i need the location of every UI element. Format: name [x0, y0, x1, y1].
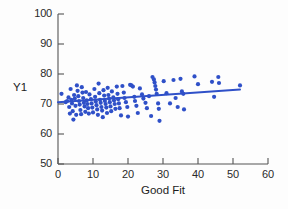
- scatter-point: [217, 81, 221, 85]
- y-axis-title: Y1: [13, 81, 27, 93]
- scatter-point: [124, 100, 128, 104]
- scatter-point: [92, 87, 96, 91]
- scatter-point: [87, 112, 91, 116]
- y-tick-label: 90: [20, 37, 52, 49]
- scatter-point: [126, 115, 130, 119]
- scatter-point: [100, 109, 104, 113]
- scatter-point: [74, 113, 78, 117]
- scatter-point: [216, 75, 220, 79]
- scatter-point: [153, 80, 157, 84]
- scatter-point: [143, 101, 147, 105]
- scatter-point: [115, 92, 119, 96]
- scatter-point: [212, 95, 216, 99]
- scatter-point: [104, 106, 108, 110]
- scatter-point: [75, 83, 79, 87]
- scatter-point: [85, 102, 89, 106]
- scatter-point: [113, 107, 117, 111]
- scatter-point: [174, 96, 178, 100]
- scatter-point: [87, 92, 91, 96]
- scatter-point: [101, 115, 105, 119]
- scatter-point: [78, 103, 82, 107]
- scatter-point: [59, 92, 63, 96]
- scatter-point: [105, 111, 109, 115]
- y-tick-label: 70: [20, 97, 52, 109]
- scatter-point: [106, 93, 110, 97]
- scatter-point: [101, 88, 105, 92]
- y-tick-label: 80: [20, 67, 52, 79]
- scatter-point: [90, 101, 94, 105]
- scatter-point: [108, 104, 112, 108]
- scatter-point: [96, 113, 100, 117]
- scatter-point: [91, 110, 95, 114]
- scatter-point: [99, 105, 103, 109]
- scatter-point: [95, 107, 99, 111]
- scatter-point: [134, 104, 138, 108]
- x-tick-label: 30: [148, 168, 178, 180]
- scatter-point: [154, 88, 158, 92]
- scatter-point: [97, 82, 101, 86]
- scatter-point: [80, 85, 84, 89]
- scatter-point: [108, 100, 112, 104]
- scatter-point: [79, 112, 83, 116]
- scatter-point: [78, 108, 82, 112]
- x-tick-label: 0: [43, 168, 73, 180]
- scatter-point: [118, 106, 122, 110]
- scatter-point: [138, 86, 142, 90]
- y-tick-label: 60: [20, 127, 52, 139]
- scatter-point: [84, 90, 88, 94]
- x-tick-label: 10: [78, 168, 108, 180]
- scatter-plot-figure: 5060708090100 0102030405060 Good Fit Y1: [0, 0, 288, 209]
- scatter-point: [117, 101, 121, 105]
- scatter-point: [176, 105, 180, 109]
- y-axis-ticks: [58, 14, 64, 164]
- scatter-point: [210, 80, 214, 84]
- x-tick-label: 40: [183, 168, 213, 180]
- scatter-point: [94, 103, 98, 107]
- scatter-point: [113, 102, 117, 106]
- scatter-point: [86, 106, 90, 110]
- scatter-point: [149, 114, 153, 118]
- x-axis-title: Good Fit: [58, 184, 268, 196]
- scatter-point: [136, 111, 140, 115]
- scatter-point: [76, 89, 80, 93]
- scatter-point: [125, 105, 129, 109]
- scatter-point: [97, 91, 101, 95]
- scatter-point: [80, 91, 84, 95]
- scatter-point: [73, 104, 77, 108]
- scatter-point: [115, 85, 119, 89]
- x-tick-label: 50: [218, 168, 248, 180]
- scatter-point: [182, 107, 186, 111]
- scatter-point: [192, 74, 196, 78]
- scatter-point: [157, 119, 161, 123]
- scatter-point: [76, 94, 80, 98]
- x-tick-label: 60: [253, 168, 283, 180]
- scatter-point: [145, 106, 149, 110]
- scatter-point: [162, 79, 166, 83]
- scatter-point: [72, 93, 76, 97]
- scatter-point: [119, 113, 123, 117]
- scatter-point: [168, 101, 172, 105]
- scatter-point: [67, 105, 71, 109]
- scatter-point: [178, 77, 182, 81]
- scatter-point: [196, 82, 200, 86]
- scatter-point: [156, 101, 160, 105]
- scatter-point: [171, 78, 175, 82]
- scatter-point: [90, 106, 94, 110]
- scatter-point: [104, 102, 108, 106]
- scatter-point: [153, 84, 157, 88]
- scatter-point: [106, 86, 110, 90]
- x-tick-label: 20: [113, 168, 143, 180]
- y-tick-label: 100: [20, 7, 52, 19]
- scatter-point: [157, 107, 161, 111]
- scatter-point: [102, 94, 106, 98]
- scatter-point: [238, 83, 242, 87]
- scatter-point: [93, 95, 97, 99]
- scatter-point: [131, 85, 135, 89]
- scatter-point: [110, 89, 114, 93]
- scatter-point: [133, 99, 137, 103]
- scatter-point: [120, 84, 124, 88]
- scatter-point: [69, 87, 73, 91]
- x-axis-ticks: [58, 158, 268, 164]
- scatter-point: [109, 109, 113, 113]
- scatter-point: [71, 118, 75, 122]
